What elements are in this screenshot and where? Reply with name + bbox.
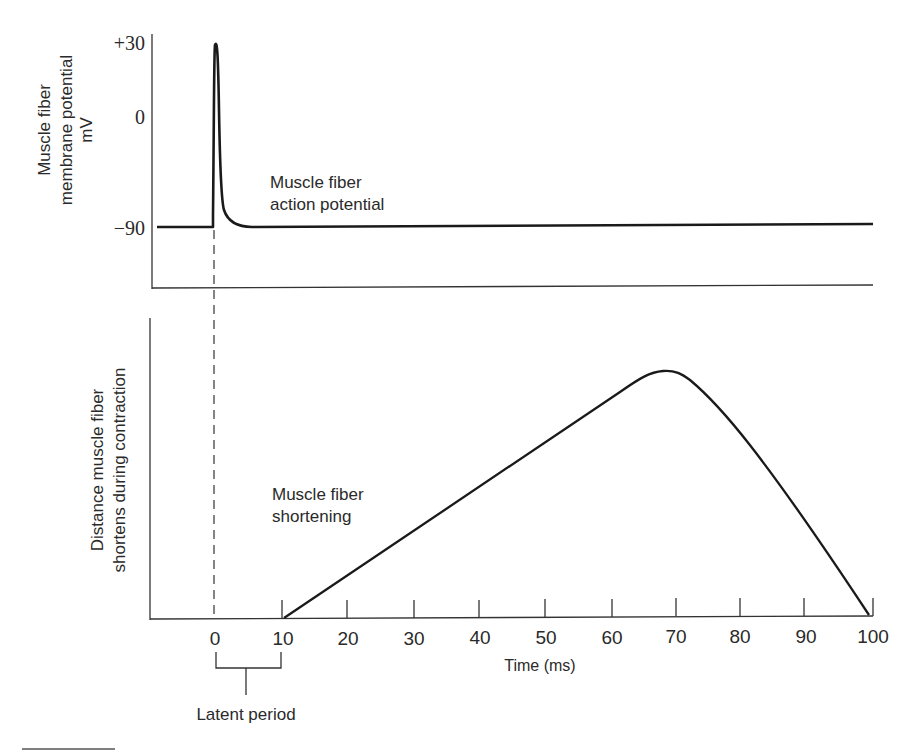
- shortening-annotation-line2: shortening: [272, 507, 351, 526]
- action-potential-annotation-line1: Muscle fiber: [270, 173, 362, 192]
- svg-text:Muscle fiber: Muscle fiber: [35, 84, 54, 176]
- svg-text:0: 0: [210, 628, 221, 649]
- svg-text:Distance muscle fiber: Distance muscle fiber: [88, 388, 107, 551]
- latent-period-label: Latent period: [196, 705, 295, 724]
- svg-text:90: 90: [795, 626, 816, 647]
- top-panel: +30 0 −90 Muscle fiber membrane potentia…: [35, 32, 873, 289]
- svg-text:30: 30: [403, 628, 424, 649]
- svg-text:mV: mV: [77, 117, 96, 143]
- svg-text:80: 80: [729, 626, 750, 647]
- shortening-curve: [284, 371, 869, 618]
- svg-text:shortens during contraction: shortens during contraction: [110, 367, 129, 572]
- bottom-panel: 0 10 20 30 40 50 60 70 80 90 100 Time (m…: [88, 318, 889, 724]
- svg-text:50: 50: [535, 627, 556, 648]
- bottom-y-label: Distance muscle fiber shortens during co…: [88, 367, 129, 572]
- action-potential-curve: [157, 44, 873, 227]
- bottom-x-axis: [150, 616, 873, 619]
- svg-text:10: 10: [272, 628, 293, 649]
- action-potential-annotation-line2: action potential: [270, 195, 384, 214]
- top-y-label: Muscle fiber membrane potential mV: [35, 55, 96, 205]
- svg-text:70: 70: [665, 626, 686, 647]
- svg-text:membrane potential: membrane potential: [57, 55, 76, 205]
- latent-period-bracket: [216, 652, 281, 695]
- x-ticks: [282, 598, 873, 618]
- svg-text:100: 100: [857, 626, 889, 647]
- top-x-axis: [152, 285, 873, 288]
- ytick-plus30: +30: [114, 32, 145, 54]
- ytick-0: 0: [135, 106, 145, 128]
- x-tick-labels: 0 10 20 30 40 50 60 70 80 90 100: [210, 626, 889, 649]
- svg-text:20: 20: [337, 628, 358, 649]
- shortening-annotation-line1: Muscle fiber: [272, 485, 364, 504]
- x-axis-label: Time (ms): [504, 657, 575, 674]
- ytick-minus90: −90: [114, 217, 145, 239]
- svg-text:40: 40: [469, 627, 490, 648]
- svg-text:60: 60: [601, 627, 622, 648]
- figure: +30 0 −90 Muscle fiber membrane potentia…: [0, 0, 907, 750]
